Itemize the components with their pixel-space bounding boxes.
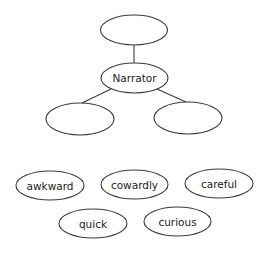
word-bank-item-careful[interactable]: careful — [185, 169, 253, 198]
tree-node-right[interactable] — [154, 102, 222, 134]
word-label: awkward — [27, 180, 74, 192]
word-label: careful — [201, 178, 237, 190]
word-bank-item-cowardly[interactable]: cowardly — [101, 170, 168, 199]
word-label: quick — [79, 218, 108, 230]
character-trait-diagram: Narrator awkward cowardly careful quick … — [0, 0, 268, 253]
word-label: curious — [158, 216, 196, 228]
tree-node-left[interactable] — [46, 103, 114, 135]
edge-narrator-to-left — [82, 89, 111, 103]
edge-narrator-to-right — [157, 89, 186, 102]
word-label: cowardly — [111, 179, 158, 191]
word-bank-item-awkward[interactable]: awkward — [16, 171, 84, 200]
tree-node-narrator-label: Narrator — [112, 72, 157, 84]
word-bank-item-curious[interactable]: curious — [144, 207, 211, 236]
tree-node-top[interactable] — [101, 15, 168, 45]
word-bank-item-quick[interactable]: quick — [59, 209, 127, 238]
tree-node-narrator: Narrator — [101, 63, 168, 93]
